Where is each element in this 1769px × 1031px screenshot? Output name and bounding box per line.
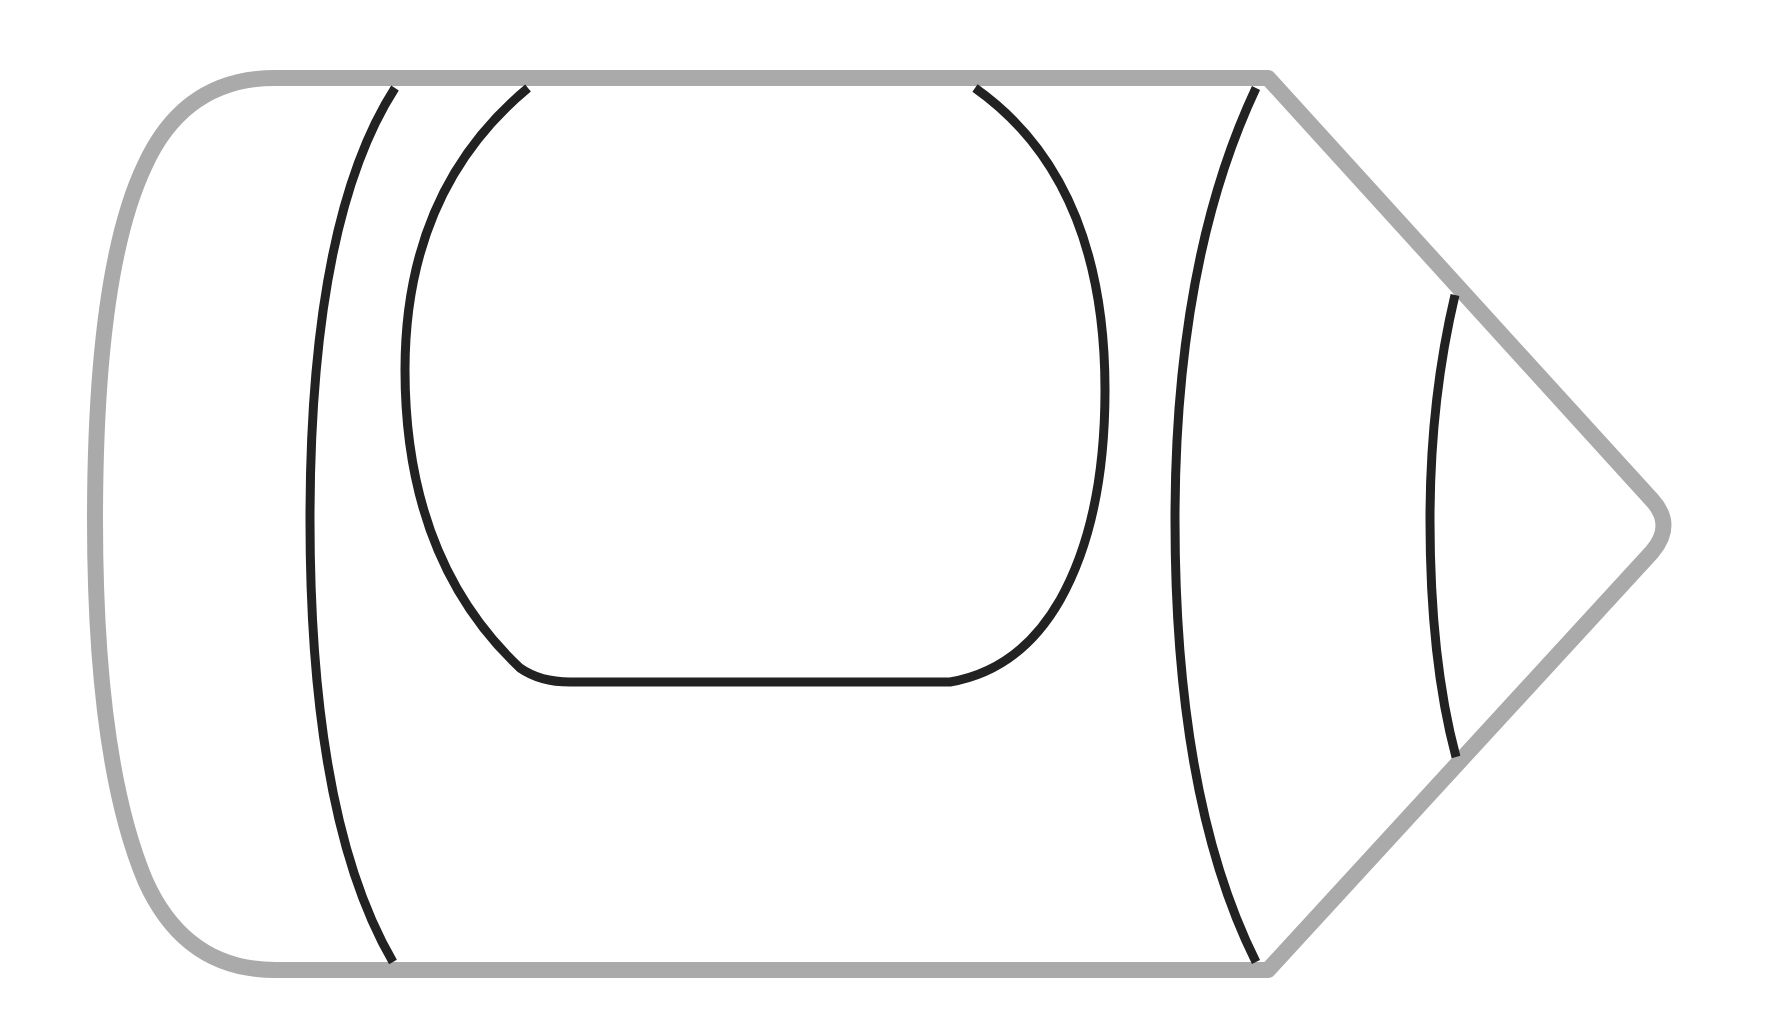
background: [0, 0, 1769, 1031]
crayon-drawing: [0, 0, 1769, 1031]
crayon-svg: [0, 0, 1769, 1031]
